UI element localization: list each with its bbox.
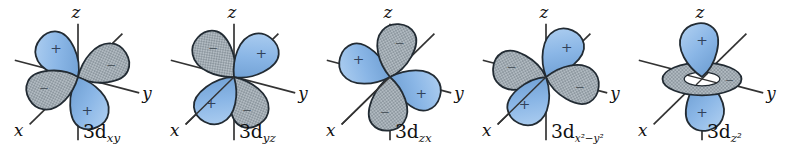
- lobe-sign: +: [696, 32, 708, 48]
- orbital-label-subscript: yz: [262, 131, 277, 145]
- orbital-diagram-3dz2: zxy−++3dz²: [624, 0, 780, 157]
- lobe-sign: +: [81, 102, 93, 118]
- orbital-label-base: 3d: [395, 121, 419, 142]
- orbital-diagram-3dx2-y2: zxy−+−+3dx²−y²: [468, 0, 624, 157]
- orbital-label-base: 3d: [551, 121, 575, 142]
- axis-y-label: y: [297, 83, 308, 103]
- orbital-label-base: 3d: [83, 121, 107, 142]
- axis-z-label: z: [539, 2, 549, 22]
- lobe-sign: −: [208, 41, 218, 55]
- orbital-panel-3dx2-y2: zxy−+−+3dx²−y²: [468, 0, 624, 157]
- lobe-sign: +: [255, 45, 267, 61]
- orbital-diagram-3dxy: zxy+−+−3dxy: [0, 0, 156, 157]
- axis-z-label: z: [71, 2, 81, 22]
- lobe-sign: −: [39, 81, 49, 95]
- lobe-sign: +: [696, 104, 708, 120]
- axis-z-label: z: [695, 2, 705, 22]
- orbital-label: 3dx²−y²: [551, 121, 604, 144]
- axis-y-label: y: [453, 83, 464, 103]
- orbital-label-base: 3d: [239, 121, 263, 142]
- orbital-label-subscript: xy: [107, 131, 121, 145]
- axis-x-label: x: [170, 120, 180, 140]
- axis-x-label: x: [638, 120, 648, 140]
- lobe-sign: −: [106, 58, 116, 72]
- orbital-diagram-3dyz: zxy−+−+3dyz: [156, 0, 312, 157]
- orbital-panel-3dzx: zxy+−+−3dzx: [312, 0, 468, 157]
- orbital-label-base: 3d: [707, 121, 731, 142]
- torus-sign: −: [725, 74, 734, 87]
- lobe-sign: +: [205, 95, 217, 111]
- lobe-sign: +: [416, 85, 428, 101]
- orbital-panel-3dxy: zxy+−+−3dxy: [0, 0, 156, 157]
- axis-z-label: z: [227, 2, 237, 22]
- axis-z-label: z: [383, 2, 393, 22]
- axis-x-label: x: [14, 120, 24, 140]
- lobe-sign: −: [507, 60, 517, 74]
- orbital-label: 3dz²: [707, 121, 742, 145]
- orbital-diagram-3dzx: zxy+−+−3dzx: [312, 0, 468, 157]
- orbital-label: 3dxy: [83, 121, 121, 145]
- orbital-label-subscript: x²−y²: [575, 132, 604, 144]
- orbital-panel-3dz2: zxy−++3dz²: [624, 0, 780, 157]
- axis-y-label: y: [765, 83, 776, 103]
- lobe-sign: +: [561, 39, 573, 55]
- lobe-sign: −: [575, 80, 585, 94]
- lobe-sign: −: [242, 103, 252, 117]
- lobe-sign: +: [519, 96, 531, 112]
- orbital-label-subscript: z²: [730, 131, 742, 145]
- axis-x-label: x: [482, 120, 492, 140]
- lobe-sign: +: [353, 51, 365, 67]
- orbital-panel-3dyz: zxy−+−+3dyz: [156, 0, 312, 157]
- axis-x-label: x: [326, 120, 336, 140]
- orbital-label-subscript: zx: [418, 131, 432, 145]
- orbital-label: 3dzx: [395, 121, 432, 145]
- d-orbitals-figure: zxy+−+−3dxyzxy−+−+3dyzzxy+−+−3dzxzxy−+−+…: [0, 0, 794, 157]
- axis-y-label: y: [609, 83, 620, 103]
- orbital-label: 3dyz: [239, 121, 277, 145]
- lobe-sign: −: [395, 36, 405, 50]
- axis-y-label: y: [141, 83, 152, 103]
- lobe-sign: −: [380, 105, 390, 119]
- lobe-sign: +: [50, 40, 62, 56]
